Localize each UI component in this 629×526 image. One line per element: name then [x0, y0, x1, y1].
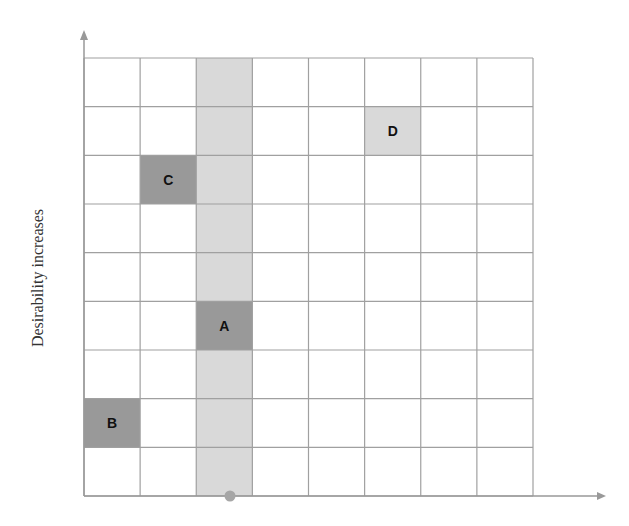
highlighted-column — [196, 58, 252, 496]
cell-label-b: B — [107, 415, 117, 431]
diagram-canvas: ABCD Desirability increases — [0, 0, 629, 526]
x-axis-arrow-icon — [597, 492, 606, 500]
cell-label-d: D — [388, 123, 398, 139]
y-axis-label: Desirability increases — [29, 209, 47, 347]
grid-matrix: ABCD — [0, 0, 629, 526]
cell-label-c: C — [163, 172, 173, 188]
y-axis-arrow-icon — [80, 30, 88, 40]
axis-marker-dot — [225, 491, 236, 502]
cell-label-a: A — [219, 318, 229, 334]
